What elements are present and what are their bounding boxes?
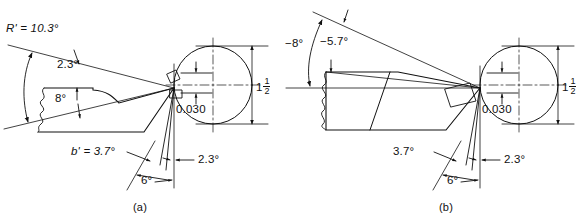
panel-b-centerlines: [472, 38, 568, 133]
panel-b-caption: (b): [439, 201, 453, 213]
panel-b-neg-back-rake-arc: [309, 20, 323, 86]
panel-a-break-line: [38, 88, 44, 132]
panel-a-lower-reference-line: [4, 88, 174, 129]
panel-a-nose-offset-label: 0.030: [176, 103, 206, 115]
panel-a-rake-reference-line: [8, 45, 174, 88]
panel-b-end-relief-label: 6°: [447, 174, 458, 186]
panel-a-nose-offset-dimension: [181, 62, 212, 104]
panel-a-relief-label: 8°: [55, 92, 66, 104]
panel-a-diameter-label: 1 1 2: [256, 77, 270, 96]
panel-a-rake-angle-arc: [24, 53, 32, 122]
panel-b-slant-cut: [370, 72, 390, 130]
panel-b-neg-side-rake-label: −5.7°: [320, 35, 348, 47]
panel-a-caption: (a): [133, 201, 147, 213]
panel-b-tip-square: [445, 83, 476, 107]
panel-b-neg-side-rake-leader: [344, 10, 348, 22]
panel-b-diameter-whole: 1: [562, 81, 568, 93]
panel-a-side-rake-dimension: [127, 152, 170, 161]
panel-a-rake-arc-label: R' = 10.3°: [6, 22, 59, 34]
figure-canvas: R' = 10.3° 2.3° 8° b' = 3.7° 6° 2.3° 0.0…: [0, 0, 579, 223]
panel-b-diameter-denominator: 2: [569, 87, 576, 96]
panel-b-angle-fan: [466, 88, 480, 170]
panel-a-tip-square-upper: [167, 70, 180, 83]
panel-a-side-angle-label: 2.3°: [198, 153, 219, 165]
panel-a-diameter-denominator: 2: [263, 87, 270, 96]
panel-b-side-rake-dimension: [434, 152, 476, 161]
panel-a-end-relief-label: 6°: [141, 174, 152, 186]
panel-b-diameter-label: 1 1 2: [562, 77, 576, 96]
panel-b-tool-body: [326, 72, 480, 130]
panel-a-side-rake-label: b' = 3.7°: [71, 145, 115, 157]
panel-a-diameter-whole: 1: [256, 81, 262, 93]
panel-b-nose-offset-label: 0.030: [482, 103, 512, 115]
panel-b-face-reference-line: [326, 72, 480, 88]
panel-b-neg-back-rake-label: −8°: [285, 37, 303, 49]
panel-a-back-rake-label: 2.3°: [57, 58, 78, 70]
panel-b-side-angle-label: 2.3°: [504, 153, 525, 165]
panel-b-side-rake-label: 3.7°: [393, 145, 414, 157]
panel-b-nose-offset-dimension: [487, 62, 518, 104]
panel-a-angle-fan: [160, 88, 174, 170]
panel-a-centerlines: [166, 38, 262, 133]
panel-a-relief-dimension: [77, 88, 80, 118]
panel-b-rake-reference-line: [313, 12, 480, 88]
panel-a-geometry: [4, 38, 268, 190]
